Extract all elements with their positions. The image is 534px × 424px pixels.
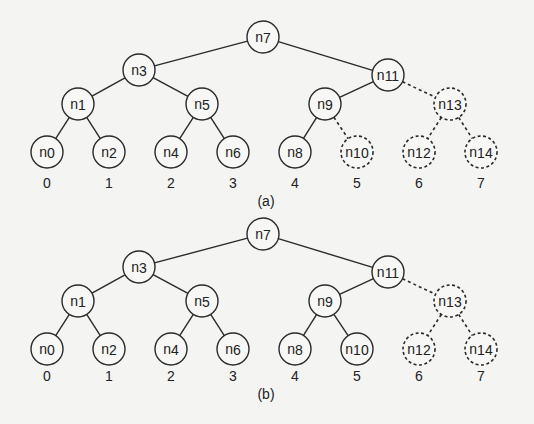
node-label: n5 bbox=[194, 293, 210, 310]
edge-n3-n5 bbox=[153, 78, 188, 97]
node-label: n2 bbox=[101, 144, 117, 161]
edge-n11-n9 bbox=[340, 82, 374, 98]
tree-diagram-a: n7n3n11n1n5n9n13n0n2n4n6n8n10n12n1401234… bbox=[31, 21, 497, 209]
diagram-caption: (b) bbox=[257, 386, 274, 402]
edge-n9-n10 bbox=[334, 314, 348, 335]
tree-node-n12: n12 bbox=[403, 136, 435, 168]
leaf-index-label: 1 bbox=[105, 368, 113, 384]
tree-node-n6: n6 bbox=[217, 136, 249, 168]
leaf-index-label: 2 bbox=[167, 368, 175, 384]
node-label: n14 bbox=[469, 341, 493, 358]
edge-n13-n12 bbox=[428, 314, 442, 335]
tree-node-n2: n2 bbox=[93, 333, 125, 365]
tree-node-n7: n7 bbox=[247, 21, 279, 53]
tree-node-n12: n12 bbox=[403, 333, 435, 365]
node-label: n7 bbox=[255, 226, 271, 243]
tree-node-n0: n0 bbox=[31, 333, 63, 365]
leaf-index-label: 0 bbox=[43, 175, 51, 191]
edge-n11-n13 bbox=[402, 82, 435, 97]
leaf-index-label: 2 bbox=[167, 175, 175, 191]
leaf-index-label: 7 bbox=[477, 368, 485, 384]
tree-node-n4: n4 bbox=[155, 333, 187, 365]
edge-n5-n4 bbox=[180, 314, 194, 335]
node-label: n0 bbox=[39, 144, 55, 161]
node-label: n11 bbox=[377, 264, 400, 281]
leaf-index-label: 6 bbox=[415, 175, 423, 191]
edge-n3-n1 bbox=[92, 275, 125, 293]
tree-node-n9: n9 bbox=[309, 88, 341, 120]
node-label: n8 bbox=[287, 144, 303, 161]
edge-n7-n11 bbox=[278, 42, 372, 71]
node-label: n9 bbox=[317, 293, 333, 310]
node-label: n9 bbox=[317, 96, 333, 113]
edge-n13-n14 bbox=[459, 314, 473, 335]
binary-tree-figure: n7n3n11n1n5n9n13n0n2n4n6n8n10n12n1401234… bbox=[0, 0, 534, 424]
leaf-index-label: 1 bbox=[105, 175, 113, 191]
node-label: n8 bbox=[287, 341, 303, 358]
node-label: n1 bbox=[70, 293, 86, 310]
tree-node-n2: n2 bbox=[93, 136, 125, 168]
tree-node-n10: n10 bbox=[341, 333, 373, 365]
node-label: n14 bbox=[469, 144, 493, 161]
tree-node-n9: n9 bbox=[309, 285, 341, 317]
node-label: n7 bbox=[255, 29, 271, 46]
tree-node-n8: n8 bbox=[279, 333, 311, 365]
node-label: n5 bbox=[194, 96, 210, 113]
node-label: n0 bbox=[39, 341, 55, 358]
tree-node-n4: n4 bbox=[155, 136, 187, 168]
leaf-index-label: 6 bbox=[415, 368, 423, 384]
tree-node-n1: n1 bbox=[62, 285, 94, 317]
edge-n13-n12 bbox=[428, 117, 442, 138]
tree-node-n6: n6 bbox=[217, 333, 249, 365]
node-label: n11 bbox=[377, 67, 400, 84]
leaf-index-label: 4 bbox=[291, 368, 299, 384]
node-label: n10 bbox=[345, 144, 369, 161]
edge-n5-n6 bbox=[211, 117, 225, 138]
node-label: n12 bbox=[407, 144, 431, 161]
edge-n9-n8 bbox=[303, 315, 316, 336]
tree-node-n10: n10 bbox=[341, 136, 373, 168]
edge-n1-n2 bbox=[87, 314, 101, 335]
leaf-index-label: 4 bbox=[291, 175, 299, 191]
tree-node-n1: n1 bbox=[62, 88, 94, 120]
tree-node-n14: n14 bbox=[465, 136, 497, 168]
tree-node-n14: n14 bbox=[465, 333, 497, 365]
node-label: n6 bbox=[225, 144, 241, 161]
tree-node-n3: n3 bbox=[123, 251, 155, 283]
leaf-index-label: 5 bbox=[353, 368, 361, 384]
edge-n7-n3 bbox=[154, 238, 247, 263]
leaf-index-label: 3 bbox=[229, 368, 237, 384]
node-label: n10 bbox=[345, 341, 369, 358]
tree-node-n5: n5 bbox=[186, 285, 218, 317]
node-label: n6 bbox=[225, 341, 241, 358]
edge-n9-n10 bbox=[334, 117, 348, 138]
tree-node-n11: n11 bbox=[372, 59, 404, 91]
node-label: n3 bbox=[131, 62, 147, 79]
tree-node-n5: n5 bbox=[186, 88, 218, 120]
leaf-index-label: 5 bbox=[353, 175, 361, 191]
edge-n7-n3 bbox=[154, 41, 247, 66]
node-label: n13 bbox=[438, 96, 462, 113]
tree-node-n3: n3 bbox=[123, 54, 155, 86]
diagram-caption: (a) bbox=[257, 193, 274, 209]
leaf-index-label: 7 bbox=[477, 175, 485, 191]
edge-n9-n8 bbox=[303, 118, 316, 139]
edge-n11-n13 bbox=[402, 279, 435, 294]
tree-node-n0: n0 bbox=[31, 136, 63, 168]
tree-diagram-b: n7n3n11n1n5n9n13n0n2n4n6n8n10n12n1401234… bbox=[31, 218, 497, 402]
tree-node-n8: n8 bbox=[279, 136, 311, 168]
edge-n1-n0 bbox=[56, 117, 70, 138]
tree-node-n13: n13 bbox=[434, 88, 466, 120]
tree-diagrams-canvas: n7n3n11n1n5n9n13n0n2n4n6n8n10n12n1401234… bbox=[0, 0, 534, 424]
edge-n5-n4 bbox=[180, 117, 194, 138]
node-label: n3 bbox=[131, 259, 147, 276]
tree-node-n11: n11 bbox=[372, 256, 404, 288]
node-label: n12 bbox=[407, 341, 431, 358]
node-label: n13 bbox=[438, 293, 462, 310]
edge-n1-n0 bbox=[56, 314, 70, 335]
edge-n13-n14 bbox=[459, 117, 473, 138]
tree-node-n13: n13 bbox=[434, 285, 466, 317]
node-label: n2 bbox=[101, 341, 117, 358]
edge-n3-n1 bbox=[92, 78, 125, 96]
edge-n3-n5 bbox=[153, 275, 188, 294]
